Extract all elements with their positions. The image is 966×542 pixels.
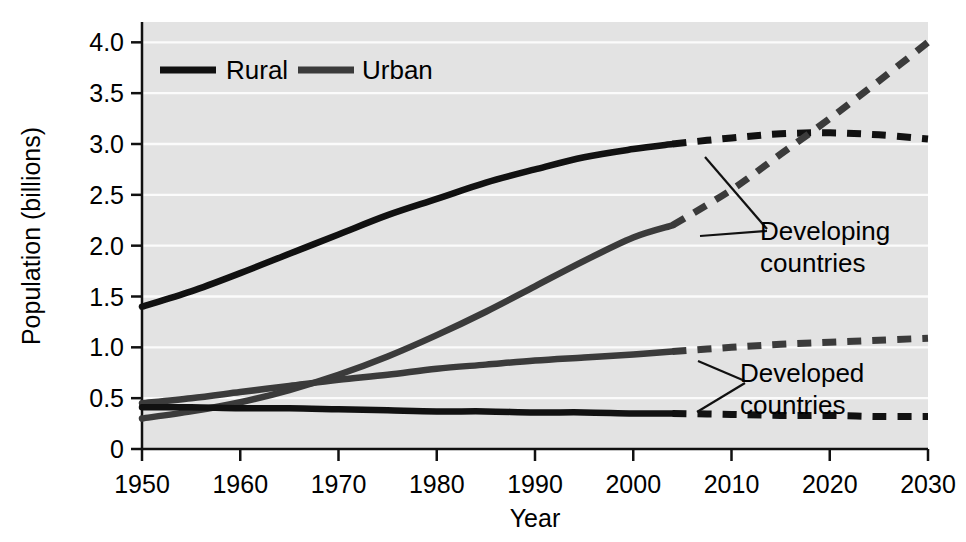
y-axis-title: Population (billions) [17,127,45,345]
x-tick-label: 2030 [900,470,956,498]
chart-figure: 00.51.01.52.02.53.03.54.0 19501960197019… [0,0,966,542]
population-line-chart: 00.51.01.52.02.53.03.54.0 19501960197019… [0,0,966,542]
y-tick-label: 0.5 [89,384,124,412]
annotation-developed-line1: Developed [740,358,864,388]
annotation-developing-line2: countries [760,248,866,278]
y-axis-ticks [131,42,142,449]
y-tick-label: 1.0 [89,333,124,361]
y-tick-label: 2.5 [89,181,124,209]
y-tick-label: 1.5 [89,283,124,311]
x-tick-label: 1970 [311,470,367,498]
x-axis-tick-labels: 195019601970198019902000201020202030 [114,470,956,498]
y-tick-label: 3.5 [89,79,124,107]
y-tick-label: 4.0 [89,28,124,56]
x-tick-label: 1960 [212,470,268,498]
legend-label-urban: Urban [362,55,433,85]
x-tick-label: 2010 [704,470,760,498]
x-axis-ticks [142,449,928,461]
x-tick-label: 2000 [605,470,661,498]
legend-label-rural: Rural [226,55,288,85]
x-tick-label: 1980 [409,470,465,498]
annotation-developing-line1: Developing [760,216,890,246]
x-tick-label: 1950 [114,470,170,498]
y-tick-label: 2.0 [89,232,124,260]
y-tick-label: 0 [110,435,124,463]
y-axis-tick-labels: 00.51.01.52.02.53.03.54.0 [89,28,124,463]
y-tick-label: 3.0 [89,130,124,158]
annotation-developed-line2: countries [740,390,846,420]
x-axis-title: Year [510,504,561,532]
x-tick-label: 2020 [802,470,858,498]
x-tick-label: 1990 [507,470,563,498]
